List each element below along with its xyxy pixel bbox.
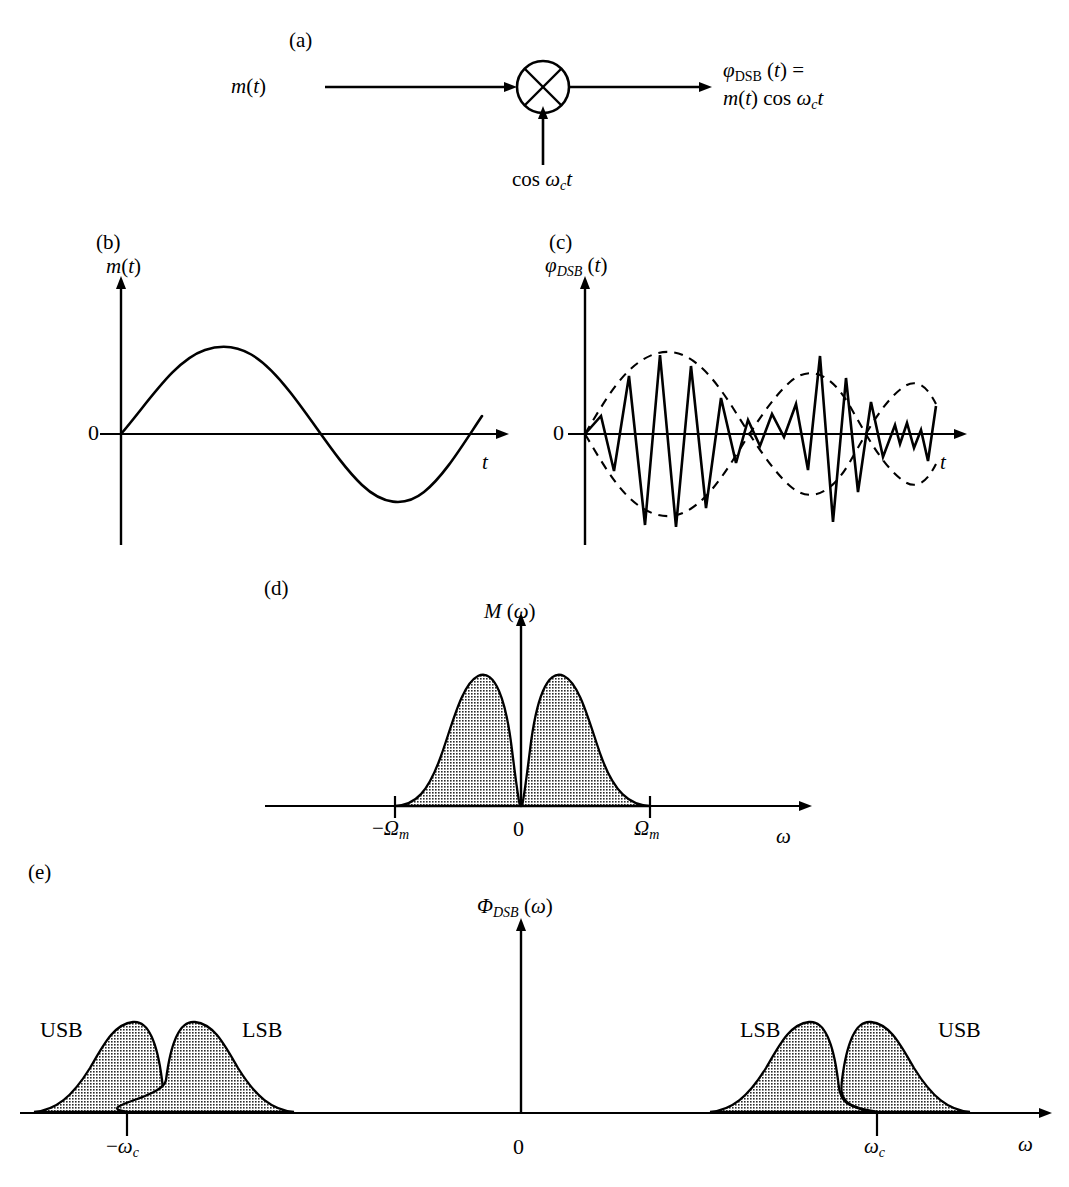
- panel-e-tag: (e): [28, 862, 51, 883]
- panel-d-x-axis-label: ω: [776, 826, 791, 847]
- panel-a-input-label: m(t): [231, 76, 266, 97]
- panel-d-tag: (d): [264, 578, 289, 599]
- panel-d-y-axis-label: M (ω): [484, 601, 536, 622]
- panel-c-envelope-upper: [585, 352, 936, 495]
- panel-c-modulated-signal: [585, 355, 936, 527]
- panel-e-band-label-usb-left: USB: [40, 1019, 83, 1041]
- panel-e-tick-label-right: ωc: [864, 1136, 885, 1160]
- panel-d-tick-label-right: Ωm: [634, 818, 659, 842]
- panel-d-lobe-right: [522, 675, 650, 806]
- panel-c-y-axis-label: φDSB (t): [545, 255, 607, 279]
- panel-b-x-axis-label: t: [482, 452, 488, 473]
- panel-d-origin-label: 0: [513, 818, 524, 840]
- panel-a-output-label-line2: m(t) cos ωct: [723, 88, 823, 112]
- panel-e-band-label-lsb-right: LSB: [740, 1019, 780, 1041]
- panel-e-band-label-usb-right: USB: [938, 1019, 981, 1041]
- panel-e-y-axis-label: ΦDSB (ω): [477, 896, 553, 920]
- panel-d-lobe-left: [395, 675, 520, 806]
- panel-b-signal-curve: [121, 347, 482, 502]
- panel-a-carrier-label: cos ωct: [512, 169, 572, 193]
- panel-b-y-axis-label: m(t): [106, 256, 141, 277]
- panel-d-tick-label-left: −Ωm: [372, 818, 409, 842]
- panel-e-x-axis-label: ω: [1018, 1134, 1033, 1155]
- panel-c-x-axis-label: t: [940, 452, 946, 473]
- panel-a-tag: (a): [289, 30, 312, 51]
- panel-e-origin-label: 0: [513, 1136, 524, 1158]
- panel-c-origin-label: 0: [553, 422, 564, 444]
- panel-a-output-label-line1: φDSB (t) =: [723, 60, 804, 84]
- panel-b-origin-label: 0: [88, 422, 99, 444]
- panel-a-block-diagram: [325, 61, 700, 165]
- panel-b-axes: [100, 288, 497, 545]
- panel-b-tag: (b): [96, 232, 121, 253]
- panel-e-tick-label-left: −ωc: [106, 1136, 139, 1160]
- panel-c-tag: (c): [549, 232, 572, 253]
- panel-e-band-label-lsb-left: LSB: [242, 1019, 282, 1041]
